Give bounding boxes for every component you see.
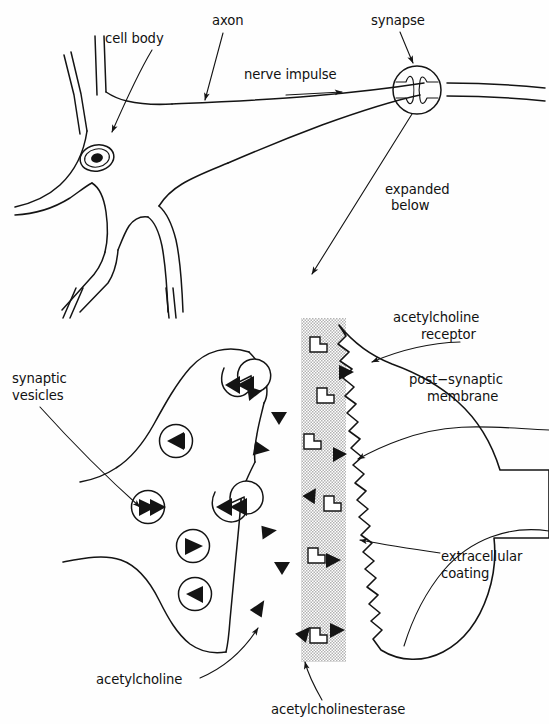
- label-post-synaptic-membrane-line2: membrane: [427, 389, 498, 404]
- soma-outline-right-taper: [159, 163, 228, 206]
- leader-synaptic-vesicles: [40, 407, 140, 507]
- diagram-canvas: cell body axon nerve impulse synapse exp…: [0, 0, 549, 724]
- synapse-circle: [393, 66, 441, 114]
- dendrite-left-lower: [15, 183, 92, 215]
- label-synaptic-vesicles-line1: synaptic: [12, 371, 67, 386]
- axon-distal-lower: [447, 96, 545, 101]
- vesicle-acetylcholine: [216, 498, 232, 516]
- leader-acetylcholinesterase: [305, 662, 322, 700]
- label-cell-body: cell body: [105, 31, 164, 46]
- dendrite-tail-a1: [63, 288, 76, 318]
- axon-distal-upper: [447, 83, 545, 88]
- acetylcholine-molecule: [274, 562, 290, 575]
- soma-outline-lower-left: [92, 183, 107, 252]
- lower-panel-synapse-detail: synaptic vesicles acetylcholine acetylch…: [12, 288, 549, 717]
- acetylcholine-molecule: [250, 597, 270, 618]
- label-extracellular-coating-line1: extracellular: [441, 549, 523, 564]
- leader-synapse: [400, 32, 413, 63]
- dendrite-upper-left: [64, 55, 80, 134]
- dendrite-lower-right-outer: [159, 206, 183, 312]
- label-extracellular-coating-line2: coating: [441, 566, 489, 581]
- label-acetylcholine-receptor-line1: acetylcholine: [393, 310, 479, 325]
- label-acetylcholine-receptor-line2: receptor: [421, 327, 477, 342]
- axon-upper-border: [172, 83, 424, 104]
- dendrite-tail-a2: [70, 288, 83, 318]
- acetylcholine-molecule: [261, 524, 277, 539]
- vesicle-group: [132, 425, 212, 611]
- leader-cell-body: [112, 50, 152, 132]
- nucleolus: [90, 152, 104, 163]
- label-synaptic-vesicles-line2: vesicles: [12, 388, 64, 403]
- label-expanded-below-line2: below: [391, 198, 430, 213]
- dendrite-lower-left-inner: [62, 252, 105, 310]
- soma-outline-top-right: [106, 92, 172, 104]
- upper-panel-neuron: cell body axon nerve impulse synapse exp…: [15, 13, 545, 312]
- neuron-synapse-figure: cell body axon nerve impulse synapse exp…: [0, 0, 549, 724]
- dendrite-tail-b2: [173, 288, 176, 318]
- label-acetylcholine: acetylcholine: [96, 672, 182, 687]
- acetylcholine-molecule: [253, 441, 271, 459]
- fused-vesicle-group: [216, 359, 271, 516]
- soma-outline-lower-branch: [118, 217, 148, 250]
- label-post-synaptic-membrane-line1: post−synaptic: [409, 372, 503, 387]
- label-nerve-impulse: nerve impulse: [244, 67, 337, 82]
- dendrite-lower-left-outer: [80, 250, 118, 312]
- synapse-inner-postsynaptic: [419, 77, 438, 103]
- label-expanded-below-line1: expanded: [385, 182, 450, 197]
- label-acetylcholinesterase: acetylcholinesterase: [271, 702, 405, 717]
- label-synapse: synapse: [371, 13, 425, 28]
- acetylcholine-molecule: [271, 412, 287, 425]
- presynaptic-membrane-seg-6: [226, 500, 241, 652]
- dendrite-lower-right-inner: [148, 217, 168, 312]
- axon-lower-border: [228, 95, 420, 163]
- label-axon: axon: [212, 13, 244, 28]
- soma-outline-left: [15, 131, 87, 207]
- dendrite-upper-middle-left: [95, 36, 97, 95]
- leader-axon: [205, 33, 223, 100]
- leader-acetylcholine-receptor: [372, 342, 460, 362]
